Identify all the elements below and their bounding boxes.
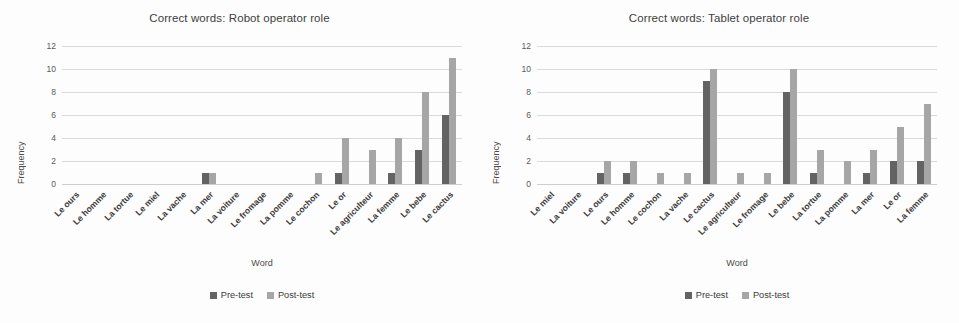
y-axis-title-tablet: Frequency xyxy=(491,46,501,184)
legend-robot: Pre-test Post-test xyxy=(62,290,462,300)
x-tick-cell: Le cactus xyxy=(435,184,462,246)
x-tick-cell: Le cochon xyxy=(302,184,329,246)
y-tick-label: 2 xyxy=(526,156,531,166)
y-tick-label: 6 xyxy=(526,110,531,120)
bar-post-test xyxy=(630,161,637,184)
y-tick-label: 0 xyxy=(51,179,56,189)
x-tick-labels-tablet: Le mielLa voitureLe oursLe hommeLe cocho… xyxy=(537,184,937,246)
legend-label-pre-test: Pre-test xyxy=(221,290,253,300)
y-tick-label: 8 xyxy=(51,87,56,97)
bar-post-test xyxy=(369,150,376,185)
x-tick-cell: La vache xyxy=(169,184,196,246)
chart-panel-tablet: Correct words: Tablet operator role Freq… xyxy=(479,0,959,323)
bar-group xyxy=(435,46,462,184)
y-tick-label: 6 xyxy=(51,110,56,120)
legend-swatch-pre-test-icon xyxy=(685,292,692,299)
legend-item-post-test: Post-test xyxy=(742,290,789,300)
bar-group xyxy=(355,46,382,184)
bar-group xyxy=(830,46,857,184)
y-axis-title-robot: Frequency xyxy=(16,46,26,184)
legend-label-pre-test: Pre-test xyxy=(696,290,728,300)
x-axis-title-tablet: Word xyxy=(537,258,937,268)
chart-title-tablet: Correct words: Tablet operator role xyxy=(479,12,959,24)
bar-group xyxy=(910,46,937,184)
charts-page: Correct words: Robot operator role Frequ… xyxy=(0,0,959,323)
legend-item-post-test: Post-test xyxy=(267,290,314,300)
bar-post-test xyxy=(897,127,904,185)
legend-swatch-pre-test-icon xyxy=(210,292,217,299)
y-tick-label: 0 xyxy=(526,179,531,189)
bar-group xyxy=(804,46,831,184)
y-tick-label: 8 xyxy=(526,87,531,97)
x-tick-cell: La pomme xyxy=(830,184,857,246)
bar-group xyxy=(62,46,89,184)
bar-group xyxy=(564,46,591,184)
bar-post-test xyxy=(449,58,456,185)
bar-group xyxy=(195,46,222,184)
bar-group xyxy=(697,46,724,184)
y-tick-label: 4 xyxy=(526,133,531,143)
x-axis-title-robot: Word xyxy=(62,258,462,268)
y-tick-label: 12 xyxy=(522,41,531,51)
bar-group xyxy=(89,46,116,184)
x-tick-cell: La mer xyxy=(857,184,884,246)
chart-panel-robot: Correct words: Robot operator role Frequ… xyxy=(0,0,479,323)
bar-group xyxy=(222,46,249,184)
legend-item-pre-test: Pre-test xyxy=(685,290,728,300)
y-tick-label: 10 xyxy=(47,64,56,74)
bar-group xyxy=(142,46,169,184)
chart-title-robot: Correct words: Robot operator role xyxy=(0,12,479,24)
y-tick-label: 10 xyxy=(522,64,531,74)
legend-label-post-test: Post-test xyxy=(753,290,789,300)
bar-post-test xyxy=(817,150,824,185)
legend-tablet: Pre-test Post-test xyxy=(537,290,937,300)
bar-group xyxy=(169,46,196,184)
legend-swatch-post-test-icon xyxy=(742,292,749,299)
legend-item-pre-test: Pre-test xyxy=(210,290,253,300)
bar-group xyxy=(537,46,564,184)
bar-group xyxy=(617,46,644,184)
y-tick-label: 2 xyxy=(51,156,56,166)
legend-label-post-test: Post-test xyxy=(278,290,314,300)
y-tick-label: 4 xyxy=(51,133,56,143)
bar-post-test xyxy=(924,104,931,185)
x-tick-labels-robot: Le oursLe hommeLa tortueLe mielLa vacheL… xyxy=(62,184,462,246)
bar-group xyxy=(884,46,911,184)
y-tick-label: 12 xyxy=(47,41,56,51)
x-tick-cell: La femme xyxy=(910,184,937,246)
legend-swatch-post-test-icon xyxy=(267,292,274,299)
